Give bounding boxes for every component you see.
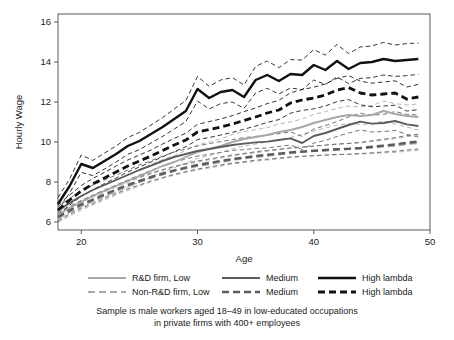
x-tick-label: 50 [425, 236, 436, 247]
x-axis-label: Age [236, 253, 253, 264]
x-tick-label: 20 [76, 236, 87, 247]
y-tick-label: 6 [46, 216, 51, 227]
x-tick-label: 40 [308, 236, 319, 247]
y-axis-label: Hourly Wage [13, 95, 24, 150]
legend-label-1-1: Medium [266, 287, 298, 297]
x-tick-label: 30 [192, 236, 203, 247]
hourly-wage-by-age-chart: 6810121416 20304050 Hourly Wage Age R&D … [0, 0, 454, 340]
y-tick-label: 12 [40, 96, 51, 107]
legend-label-0-0: R&D firm, Low [132, 273, 191, 283]
y-tick-label: 14 [40, 56, 51, 67]
y-tick-label: 10 [40, 136, 51, 147]
legend-label-1-2: High lambda [362, 287, 413, 297]
legend-label-0-2: High lambda [362, 273, 413, 283]
y-tick-label: 8 [46, 176, 51, 187]
caption-line-2: in private firms with 400+ employees [154, 318, 300, 328]
legend-label-1-0: Non-R&D firm, Low [132, 287, 210, 297]
y-tick-label: 16 [40, 16, 51, 27]
legend-label-0-1: Medium [266, 273, 298, 283]
caption-line-1: Sample is male workers aged 18–49 in low… [96, 306, 358, 316]
